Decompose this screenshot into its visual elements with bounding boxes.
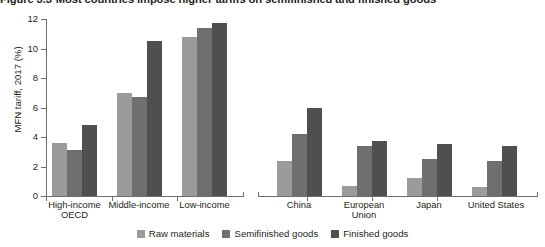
bar-united-states-finished-goods: [502, 146, 517, 196]
x-label-line2: Union: [352, 209, 377, 220]
y-tick-label-2: 2: [6, 162, 38, 171]
axis-cap-right-a: [243, 192, 244, 196]
plot-area: MFN tariff, 2017 (%) 12 10 8 6 4 2 0: [0, 0, 545, 247]
x-axis-line-panel-a: [46, 196, 244, 197]
bar-middle-income-semifinished-goods: [132, 97, 147, 196]
legend-label-finished-goods: Finished goods: [343, 228, 408, 239]
x-axis-label-high-income-oecd: High-income OECD: [42, 200, 107, 221]
x-label-line1: Low-income: [179, 199, 230, 210]
figure-container: Figure 3.3Most countries impose higher t…: [0, 0, 545, 247]
bar-japan-finished-goods: [437, 144, 452, 196]
legend-swatch-icon-semifinished-goods: [222, 230, 230, 238]
bar-european-union-semifinished-goods: [357, 146, 372, 196]
legend-label-raw-materials: Raw materials: [149, 228, 210, 239]
bar-high-income-oecd-raw-materials: [52, 143, 67, 196]
x-axis-label-low-income: Low-income: [172, 200, 237, 210]
x-label-line1: High-income: [48, 199, 101, 210]
x-label-line1: China: [287, 199, 312, 210]
legend-item-raw-materials: Raw materials: [137, 228, 210, 239]
bar-low-income-finished-goods: [212, 23, 227, 196]
y-tick-label-10: 10: [6, 44, 38, 53]
y-tick-label-6: 6: [6, 103, 38, 112]
bar-middle-income-raw-materials: [117, 93, 132, 196]
bar-united-states-raw-materials: [472, 187, 487, 196]
bar-japan-raw-materials: [407, 178, 422, 196]
axis-cap-left-b: [258, 192, 259, 196]
x-axis-label-japan: Japan: [399, 200, 459, 210]
legend-item-finished-goods: Finished goods: [331, 228, 408, 239]
bar-european-union-finished-goods: [372, 141, 387, 196]
y-tick-label-12: 12: [6, 14, 38, 23]
x-label-line1: Middle-income: [109, 199, 170, 210]
bar-low-income-raw-materials: [182, 37, 197, 196]
x-axis-label-china: China: [269, 200, 329, 210]
y-tick-label-4: 4: [6, 132, 38, 141]
x-label-line1: United States: [468, 199, 524, 210]
bar-middle-income-finished-goods: [147, 41, 162, 196]
legend-swatch-icon-finished-goods: [331, 230, 339, 238]
legend-swatch-icon-raw-materials: [137, 230, 145, 238]
x-axis-label-middle-income: Middle-income: [104, 200, 174, 210]
axis-cap-right-b: [537, 192, 538, 196]
bar-china-semifinished-goods: [292, 134, 307, 196]
x-label-line1: Japan: [416, 199, 442, 210]
x-axis-label-united-states: United States: [460, 200, 532, 210]
y-tick-label-0: 0: [6, 191, 38, 200]
x-label-line2: OECD: [61, 209, 88, 220]
x-axis-line-panel-b: [258, 196, 538, 197]
bar-china-raw-materials: [277, 161, 292, 196]
bar-china-finished-goods: [307, 108, 322, 197]
bar-high-income-oecd-finished-goods: [82, 125, 97, 196]
legend-label-semifinished-goods: Semifinished goods: [234, 228, 318, 239]
chart-legend: Raw materials Semifinished goods Finishe…: [0, 228, 545, 239]
bar-united-states-semifinished-goods: [487, 161, 502, 196]
y-tick-label-8: 8: [6, 73, 38, 82]
bar-japan-semifinished-goods: [422, 159, 437, 196]
x-axis-label-european-union: European Union: [334, 200, 394, 221]
legend-item-semifinished-goods: Semifinished goods: [222, 228, 318, 239]
bar-high-income-oecd-semifinished-goods: [67, 150, 82, 196]
bar-european-union-raw-materials: [342, 186, 357, 196]
y-axis-title: MFN tariff, 2017 (%): [12, 5, 23, 175]
bar-low-income-semifinished-goods: [197, 28, 212, 196]
x-label-line1: European: [344, 199, 385, 210]
y-axis-line: [46, 19, 47, 196]
